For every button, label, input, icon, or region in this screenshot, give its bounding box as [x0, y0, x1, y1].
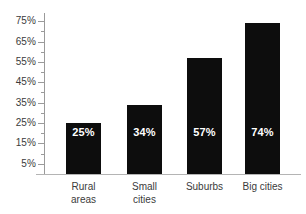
y-axis-minor-tick — [41, 72, 45, 73]
x-axis-category-label: Suburbs — [173, 180, 237, 193]
plot-area: 25%Ruralareas34%Smallcities57%Suburbs74%… — [0, 0, 306, 214]
y-axis-major-tick — [38, 82, 45, 83]
bar[interactable] — [187, 58, 222, 174]
y-axis-major-tick — [38, 143, 45, 144]
bar-value-label: 34% — [127, 126, 162, 138]
bar-value-label: 25% — [66, 126, 101, 138]
x-axis-category-label-line: cities — [113, 193, 177, 206]
x-axis-category-label-line: Small — [113, 180, 177, 193]
x-axis-category-label-line: Big cities — [231, 180, 295, 193]
y-axis-minor-tick — [41, 92, 45, 93]
y-axis-major-tick — [38, 42, 45, 43]
x-axis-category-label: Smallcities — [113, 180, 177, 206]
x-axis-category-label-line: Rural — [52, 180, 116, 193]
y-axis-minor-tick — [41, 113, 45, 114]
x-axis-category-label: Ruralareas — [52, 180, 116, 206]
y-axis-minor-tick — [41, 52, 45, 53]
y-axis-minor-tick — [41, 31, 45, 32]
bar-value-label: 57% — [187, 126, 222, 138]
bar[interactable] — [127, 105, 162, 174]
y-axis-minor-tick — [41, 154, 45, 155]
x-axis-category-label-line: areas — [52, 193, 116, 206]
bar-chart: 5%15%25%35%45%55%65%75% 25%Ruralareas34%… — [0, 0, 306, 214]
y-axis-major-tick — [38, 164, 45, 165]
y-axis-major-tick — [38, 123, 45, 124]
bar[interactable] — [245, 23, 280, 174]
y-axis-major-tick — [38, 103, 45, 104]
x-axis-category-label: Big cities — [231, 180, 295, 193]
y-axis-major-tick — [38, 62, 45, 63]
bar-value-label: 74% — [245, 126, 280, 138]
y-axis-major-tick — [38, 21, 45, 22]
y-axis-minor-tick — [41, 133, 45, 134]
x-axis-category-label-line: Suburbs — [173, 180, 237, 193]
